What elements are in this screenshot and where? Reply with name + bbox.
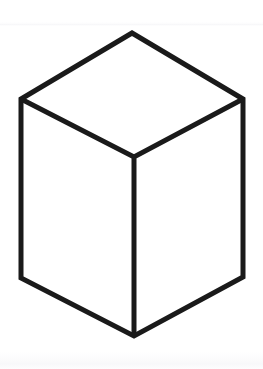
- page-canvas: Cube line drawing Outline drawing of a t…: [0, 0, 263, 369]
- cube-figure: Cube line drawing Outline drawing of a t…: [0, 0, 263, 369]
